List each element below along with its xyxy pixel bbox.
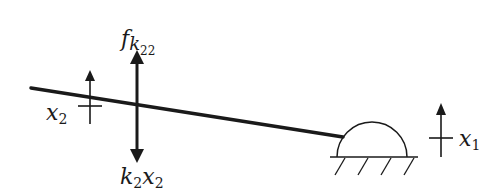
displacement-x1-label: x1 (459, 126, 480, 153)
arrow-down-head-icon (130, 149, 144, 163)
displacement-x2-label: x2 (46, 100, 67, 127)
arrow-up-icon (85, 70, 95, 81)
lever-diagram: fk22 k2x2 x2 x1 (0, 0, 502, 195)
force-top-label: fk22 (119, 26, 155, 58)
force-bottom-label: k2x2 (120, 164, 164, 191)
pivot-support (330, 122, 437, 175)
beam (31, 88, 343, 137)
displacement-x1-indicator (429, 103, 453, 157)
arrow-up-icon (436, 103, 446, 115)
ground-hatching-icon (335, 158, 437, 175)
